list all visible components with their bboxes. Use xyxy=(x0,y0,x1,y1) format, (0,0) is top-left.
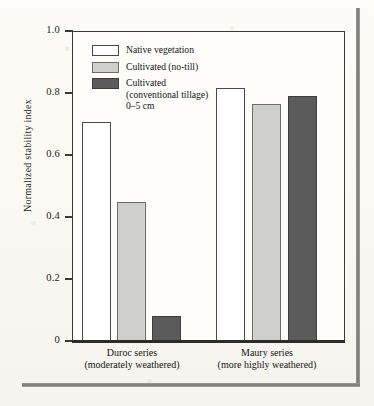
legend-item-cultivated-no-till: Cultivated (no-till) xyxy=(92,61,208,74)
y-tick-0p4 xyxy=(65,216,73,217)
y-tick-label-0p6: 0.6 xyxy=(26,148,60,159)
legend-item-native-vegetation: Native vegetation xyxy=(92,44,208,57)
page-edge-bottom xyxy=(22,383,360,387)
legend-label-cultivated-no-till: Cultivated (no-till) xyxy=(126,61,208,73)
y-tick-label-0p4: 0.4 xyxy=(26,210,60,221)
x-category-duroc: Duroc series (moderately weathered) xyxy=(62,347,202,372)
legend-swatch-cultivated-conventional xyxy=(92,78,119,89)
y-tick-label-1: 1.0 xyxy=(26,24,60,35)
legend-label-cultivated-conventional-l3: 0–5 cm xyxy=(126,100,208,112)
y-tick-1 xyxy=(65,30,73,31)
legend-item-cultivated-conventional: Cultivated (conventional tillage) 0–5 cm xyxy=(92,77,208,112)
bar-maury-dark xyxy=(288,96,317,341)
bar-maury-white xyxy=(216,88,245,341)
x-category-maury-line1: Maury series xyxy=(197,347,337,359)
legend-label-cultivated-conventional-l1: Cultivated xyxy=(126,77,208,89)
y-axis: Normalized stability index xyxy=(0,0,62,406)
legend-swatch-native-vegetation xyxy=(92,45,119,56)
bar-duroc-white xyxy=(82,122,111,341)
y-tick-label-0p2: 0.2 xyxy=(26,272,60,283)
x-category-duroc-line2: (moderately weathered) xyxy=(62,359,202,371)
bar-duroc-light xyxy=(117,202,146,341)
y-tick-label-0: 0 xyxy=(26,334,60,345)
bar-maury-light xyxy=(252,104,281,341)
legend-swatch-cultivated-no-till xyxy=(92,62,119,73)
y-tick-0p6 xyxy=(65,154,73,155)
y-tick-label-0p8: 0.8 xyxy=(26,86,60,97)
chart-legend: Native vegetation Cultivated (no-till) C… xyxy=(92,44,208,115)
legend-label-native-vegetation: Native vegetation xyxy=(126,44,208,56)
y-tick-0p8 xyxy=(65,92,73,93)
x-category-maury-line2: (more highly weathered) xyxy=(197,359,337,371)
legend-label-cultivated-conventional-l2: (conventional tillage) xyxy=(126,89,208,101)
x-category-duroc-line1: Duroc series xyxy=(62,347,202,359)
page-edge-right xyxy=(356,8,360,386)
bar-duroc-dark xyxy=(152,316,181,341)
x-axis-baseline xyxy=(72,340,345,343)
y-tick-0p2 xyxy=(65,278,73,279)
x-category-maury: Maury series (more highly weathered) xyxy=(197,347,337,372)
